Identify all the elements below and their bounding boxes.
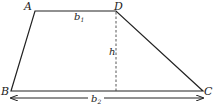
vertex-label-c: C (204, 85, 213, 98)
trapezoid-shape (11, 11, 203, 91)
vertex-label-b: B (0, 85, 9, 98)
height-label: h (109, 46, 115, 57)
top-base-label: b1 (74, 11, 84, 23)
vertex-label-d: D (113, 0, 123, 13)
vertex-label-a: A (23, 0, 32, 13)
trapezoid-diagram: A D B C b1 h b2 (0, 0, 213, 112)
